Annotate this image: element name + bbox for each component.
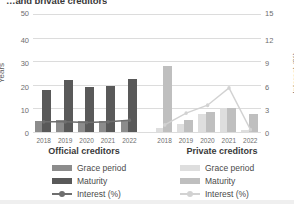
legend-official: Grace period Maturity Interest (%) (52, 161, 126, 200)
interest-line-marker (63, 120, 66, 124)
y-tick-right: 9 (265, 60, 291, 68)
y-tick-right: 3 (265, 107, 291, 115)
interest-line-official-svg (33, 14, 140, 132)
interest-line-marker (227, 86, 230, 90)
legend-swatch-icon (52, 165, 72, 171)
y-tick-right: 15 (265, 10, 291, 18)
x-tick-label: 2019 (175, 136, 196, 145)
legend-item-interest[interactable]: Interest (%) (52, 187, 126, 200)
interest-line-marker (206, 103, 209, 107)
x-tick-label: 2019 (54, 136, 75, 145)
y-axis-left-title: Years (0, 63, 6, 83)
interest-line-marker (106, 120, 109, 124)
interest-line-marker (184, 111, 187, 115)
x-tick-label: 2018 (154, 136, 175, 145)
x-axis-labels: 20182019202020212022 2018201920202021202… (33, 136, 261, 146)
legend-swatch-icon (180, 165, 200, 171)
line-private (154, 14, 261, 132)
legend-item-maturity[interactable]: Maturity (180, 174, 254, 187)
interest-line-marker (85, 121, 88, 125)
legend-label: Maturity (77, 176, 107, 186)
x-labels-private: 20182019202020212022 (154, 136, 261, 146)
interest-line-marker (249, 128, 252, 132)
x-tick-label: 2020 (76, 136, 97, 145)
plot-area: 50 40 30 20 10 0 15 12 9 6 3 0 Years Int… (33, 14, 261, 132)
legend-line-marker-icon (52, 191, 72, 197)
panel-title-official: Official creditors (14, 146, 154, 156)
legend-item-interest[interactable]: Interest (%) (180, 187, 254, 200)
interest-line-marker (128, 118, 131, 122)
y-tick-right: 0 (265, 130, 291, 138)
interest-line-path (165, 88, 251, 130)
legend-label: Grace period (77, 163, 126, 173)
chart-title: …and private creditors (6, 0, 107, 4)
interest-line-marker (163, 123, 166, 127)
legend-label: Maturity (205, 176, 235, 186)
legend-item-grace-period[interactable]: Grace period (52, 161, 126, 174)
y-tick-left: 30 (3, 60, 29, 68)
x-tick-label: 2022 (240, 136, 261, 145)
x-tick-label: 2021 (218, 136, 239, 145)
bottom-rule (0, 200, 294, 204)
panel-title-private: Private creditors (152, 146, 292, 156)
chart-root: …and private creditors 50 40 30 20 10 0 … (0, 0, 294, 204)
y-tick-right: 12 (265, 37, 291, 45)
legend-item-maturity[interactable]: Maturity (52, 174, 126, 187)
legend-line-marker-icon (180, 191, 200, 197)
legend-item-grace-period[interactable]: Grace period (180, 161, 254, 174)
x-labels-official: 20182019202020212022 (33, 136, 140, 146)
interest-line-private-svg (154, 14, 261, 132)
y-tick-right: 6 (265, 84, 291, 92)
y-tick-left: 10 (3, 107, 29, 115)
interest-line-marker (42, 120, 45, 124)
y-tick-left: 40 (3, 37, 29, 45)
x-tick-label: 2021 (97, 136, 118, 145)
legend-label: Grace period (205, 163, 254, 173)
y-tick-left: 50 (3, 10, 29, 18)
line-official (33, 14, 140, 132)
panel-official-creditors (33, 14, 140, 132)
panel-private-creditors (154, 14, 261, 132)
legend-swatch-icon (52, 178, 72, 184)
legend-label: Interest (%) (77, 189, 121, 199)
x-tick-label: 2020 (197, 136, 218, 145)
x-tick-label: 2018 (33, 136, 54, 145)
y-tick-left: 20 (3, 84, 29, 92)
legend-swatch-icon (180, 178, 200, 184)
y-tick-left: 0 (3, 130, 29, 138)
x-tick-label: 2022 (119, 136, 140, 145)
legend-private: Grace period Maturity Interest (%) (180, 161, 254, 200)
legend-label: Interest (%) (205, 189, 249, 199)
y-axis-right-title: Interest (%) (291, 52, 295, 93)
